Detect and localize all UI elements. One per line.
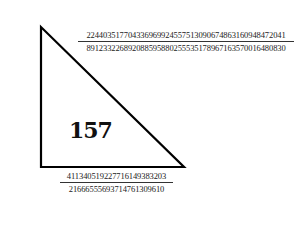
- fraction-bar: [60, 182, 173, 183]
- horizontal-leg-denominator: 21666555693714761309610: [60, 184, 173, 194]
- horizontal-leg-length-fraction: 411340519227716149383203 216665556937147…: [60, 171, 173, 194]
- hypotenuse-denominator: 8912332268920885958802555351789671635700…: [78, 43, 294, 53]
- horizontal-leg-numerator: 411340519227716149383203: [60, 171, 173, 181]
- area-label: 157: [69, 117, 112, 143]
- hypotenuse-length-fraction: 2244035177043369699245575130906748631609…: [78, 30, 294, 53]
- hypotenuse-numerator: 2244035177043369699245575130906748631609…: [78, 30, 294, 40]
- fraction-bar: [78, 41, 294, 42]
